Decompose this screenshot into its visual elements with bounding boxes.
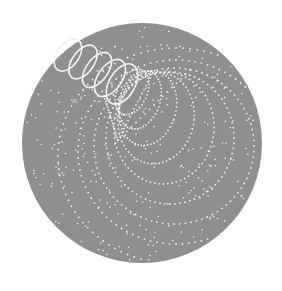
dot bbox=[225, 121, 227, 123]
dot bbox=[185, 222, 187, 224]
dot bbox=[93, 145, 95, 147]
dot bbox=[173, 118, 175, 120]
dot bbox=[33, 173, 35, 175]
dot bbox=[190, 105, 192, 107]
dot bbox=[154, 182, 156, 184]
dot bbox=[77, 223, 79, 225]
dot bbox=[145, 97, 147, 99]
dot bbox=[98, 172, 100, 174]
dot bbox=[126, 130, 128, 132]
dot bbox=[58, 222, 60, 224]
dot bbox=[253, 145, 255, 147]
dot bbox=[80, 127, 82, 129]
dot bbox=[207, 84, 209, 86]
dot bbox=[196, 220, 198, 222]
dot bbox=[213, 117, 215, 119]
dot bbox=[183, 83, 185, 85]
dot bbox=[117, 98, 119, 100]
dot bbox=[114, 99, 116, 101]
dot bbox=[143, 89, 145, 91]
dot bbox=[198, 163, 200, 165]
dot bbox=[141, 70, 143, 72]
dot bbox=[145, 198, 147, 200]
dot bbox=[61, 129, 63, 131]
dot bbox=[230, 200, 232, 202]
dot bbox=[231, 153, 233, 155]
dot bbox=[207, 191, 209, 193]
dot bbox=[116, 117, 118, 119]
dot bbox=[111, 84, 113, 86]
dot bbox=[217, 54, 219, 56]
dot bbox=[252, 134, 254, 136]
dot bbox=[103, 108, 105, 110]
dot bbox=[184, 144, 186, 146]
dot bbox=[91, 119, 93, 121]
dot bbox=[55, 166, 57, 168]
dot bbox=[120, 124, 122, 126]
dot bbox=[115, 135, 117, 137]
dot bbox=[143, 101, 145, 103]
dot bbox=[127, 85, 129, 87]
dot bbox=[82, 89, 84, 91]
dot bbox=[79, 169, 81, 171]
dot bbox=[125, 83, 127, 85]
dot bbox=[65, 129, 67, 131]
dot bbox=[58, 164, 60, 166]
dot bbox=[137, 159, 139, 161]
dot bbox=[82, 222, 84, 224]
dot bbox=[149, 109, 151, 111]
dot bbox=[221, 208, 223, 210]
dot bbox=[80, 98, 82, 100]
dot bbox=[81, 148, 83, 150]
dot bbox=[122, 95, 124, 97]
dot bbox=[115, 105, 117, 107]
dot bbox=[88, 221, 90, 223]
dot bbox=[228, 112, 230, 114]
dot bbox=[106, 216, 108, 218]
dot bbox=[93, 151, 95, 153]
dot bbox=[224, 172, 226, 174]
dot bbox=[135, 214, 137, 216]
dot bbox=[135, 77, 137, 79]
dot bbox=[105, 144, 107, 146]
dot bbox=[111, 154, 113, 156]
dot bbox=[57, 149, 59, 151]
dot bbox=[179, 46, 181, 48]
dot bbox=[134, 158, 136, 160]
dot bbox=[84, 95, 86, 97]
dot bbox=[244, 86, 246, 88]
dot bbox=[144, 238, 146, 240]
dot bbox=[167, 67, 169, 69]
dot bbox=[98, 249, 100, 251]
dot bbox=[167, 91, 169, 93]
dot bbox=[250, 123, 252, 125]
dot bbox=[163, 183, 165, 185]
dot bbox=[192, 148, 194, 150]
dot bbox=[177, 78, 179, 80]
dot bbox=[162, 136, 164, 138]
dot bbox=[130, 211, 132, 213]
dot bbox=[61, 181, 63, 183]
dot bbox=[120, 137, 122, 139]
dot bbox=[133, 54, 135, 56]
dot bbox=[213, 145, 215, 147]
dot bbox=[65, 153, 67, 155]
dot bbox=[183, 167, 185, 169]
dot bbox=[135, 122, 137, 124]
dot bbox=[206, 155, 208, 157]
dot bbox=[176, 102, 178, 104]
dot bbox=[209, 103, 211, 105]
dot bbox=[176, 154, 178, 156]
dot bbox=[224, 71, 226, 73]
dot bbox=[62, 214, 64, 216]
dot bbox=[153, 126, 155, 128]
dot bbox=[194, 241, 196, 243]
dot bbox=[167, 104, 169, 106]
dot bbox=[157, 78, 159, 80]
dot bbox=[178, 56, 180, 58]
dot bbox=[109, 98, 111, 100]
dot bbox=[131, 128, 133, 130]
dot bbox=[121, 128, 123, 130]
dot bbox=[182, 243, 184, 245]
dot bbox=[101, 90, 103, 92]
